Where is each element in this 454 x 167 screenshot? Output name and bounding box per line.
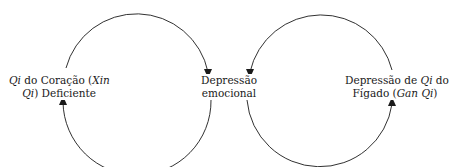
term-qi: Qi	[22, 87, 34, 99]
label-text: do	[433, 74, 449, 86]
cycle-diagram: Qi do Coração (Xin Qi) Deficiente Depres…	[0, 0, 454, 167]
label-line1: Depressão	[201, 74, 257, 87]
term-gan-qi: Gan Qi	[397, 87, 434, 99]
arrow-heart-to-depression	[66, 14, 208, 72]
node-heart-qi-deficient: Qi do Coração (Xin Qi) Deficiente	[8, 74, 110, 100]
arrow-depression-to-liver	[247, 100, 392, 167]
label-text: Fígado (	[353, 87, 397, 99]
node-liver-qi-depression: Depressão de Qi do Fígado (Gan Qi)	[344, 74, 446, 100]
arrow-depression-to-heart	[63, 100, 211, 167]
label-text: )	[433, 87, 437, 99]
label-line2: emocional	[201, 87, 257, 100]
node-emotional-depression: Depressão emocional	[200, 74, 258, 100]
label-text: ) Deficiente	[34, 87, 96, 99]
term-qi: Qi	[9, 74, 21, 86]
arrow-liver-to-depression	[250, 15, 392, 72]
label-text: do Coração (	[21, 74, 92, 86]
term-qi: Qi	[421, 74, 433, 86]
label-text: Depressão de	[345, 74, 421, 86]
term-xin: Xin	[92, 74, 110, 86]
